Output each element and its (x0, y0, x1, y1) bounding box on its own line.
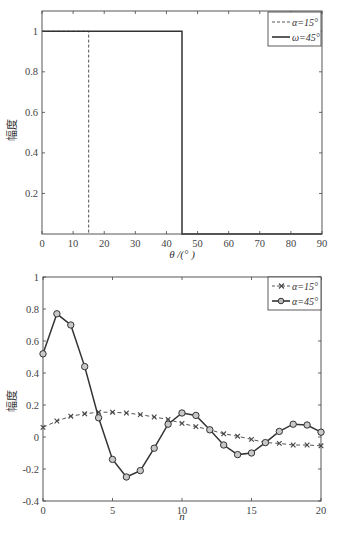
x-tick-label: 5 (110, 505, 115, 516)
chart-bottom-sequence-amplitude: 05101520-0.4-0.200.20.40.60.81 幅度 n α=15… (0, 266, 340, 535)
circle-marker-icon (40, 351, 46, 357)
y-tick-label: 0.2 (25, 188, 38, 199)
circle-marker-icon (290, 421, 296, 427)
y-tick-label: -0.2 (22, 464, 39, 475)
legend-label-series-1: α=15° (292, 281, 318, 292)
x-tick-label: 80 (286, 238, 297, 249)
circle-marker-icon (207, 427, 213, 433)
circle-marker-icon (151, 445, 157, 451)
y-tick-label: 0 (34, 432, 39, 443)
y-tick-label: 0.4 (25, 147, 39, 158)
circle-marker-icon (248, 450, 254, 456)
x-tick-label: 0 (40, 505, 45, 516)
circle-marker-icon (179, 410, 185, 416)
circle-marker-icon (165, 421, 171, 427)
y-tick-label: 0.4 (26, 368, 40, 379)
legend-label-series-2: α=45° (292, 296, 318, 307)
circle-marker-icon (193, 412, 199, 418)
x-tick-label: 70 (255, 238, 266, 249)
circle-marker-icon (304, 422, 310, 428)
legend: α=15° ω=45° (268, 12, 321, 46)
series-line-2 (43, 314, 321, 477)
x-tick-label: 15 (246, 505, 257, 516)
x-axis-label: θ /(° ) (169, 248, 195, 261)
circle-marker-icon (109, 456, 115, 462)
circle-marker-icon (68, 322, 74, 328)
chart-top-angular-amplitude: 01020304050607080900.20.40.60.81 幅度 θ /(… (0, 0, 340, 266)
y-tick-label: 0.6 (25, 107, 38, 118)
circle-marker-icon (318, 429, 324, 435)
circle-marker-icon (82, 363, 88, 369)
legend-label-series-2: ω=45° (292, 32, 320, 43)
x-tick-label: 90 (317, 238, 328, 249)
circle-marker-icon (54, 311, 60, 317)
y-tick-label: 0.6 (26, 336, 39, 347)
x-axis-label: n (179, 510, 185, 522)
legend-label-series-1: α=15° (292, 17, 318, 28)
y-axis-label: 幅度 (5, 119, 18, 141)
y-tick-label: 0.8 (25, 66, 38, 77)
series-line-2 (42, 31, 322, 234)
circle-marker-icon (95, 415, 101, 421)
circle-marker-icon (123, 474, 129, 480)
y-tick-label: 1 (34, 272, 39, 283)
y-tick-label: 1 (33, 26, 38, 37)
circle-marker-icon (234, 451, 240, 457)
x-tick-label: 10 (68, 238, 79, 249)
x-tick-label: 0 (39, 238, 44, 249)
plot-area: 01020304050607080900.20.40.60.81 (25, 11, 327, 249)
x-marker-icon (55, 419, 60, 424)
circle-marker-icon (278, 298, 284, 304)
circle-marker-icon (137, 467, 143, 473)
y-axis-label: 幅度 (5, 390, 18, 412)
legend: α=15° α=45° (268, 277, 321, 310)
x-tick-label: 20 (99, 238, 110, 249)
y-tick-label: -0.4 (22, 496, 39, 507)
circle-marker-icon (276, 428, 282, 434)
x-tick-label: 20 (316, 505, 327, 516)
x-tick-label: 60 (223, 238, 234, 249)
y-tick-label: 0.8 (26, 304, 39, 315)
circle-marker-icon (221, 442, 227, 448)
circle-marker-icon (262, 439, 268, 445)
axes-frame (43, 277, 321, 501)
series-line-1 (42, 31, 89, 234)
x-tick-label: 30 (130, 238, 141, 249)
y-tick-label: 0.2 (26, 400, 39, 411)
